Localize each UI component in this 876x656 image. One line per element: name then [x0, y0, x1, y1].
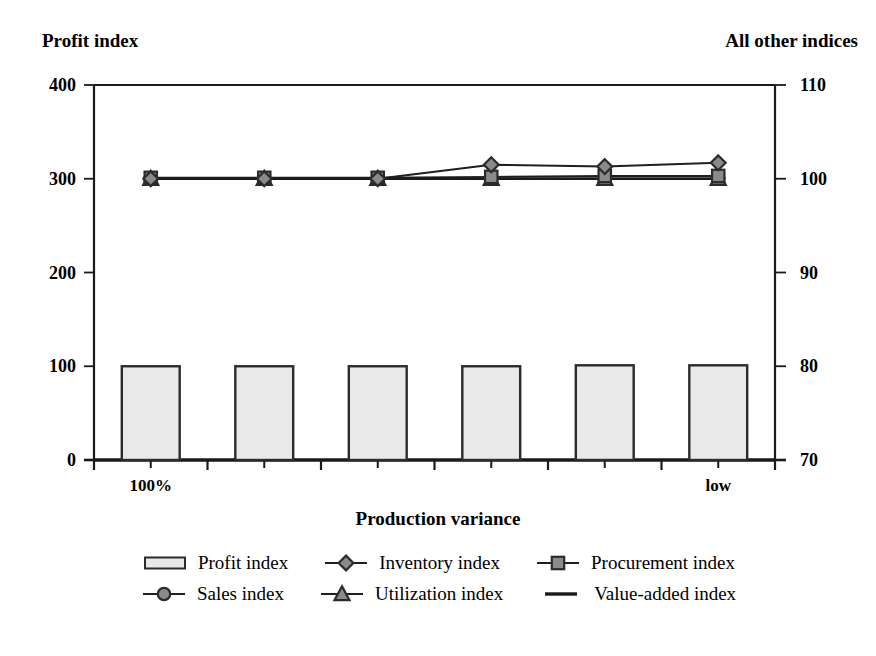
legend-label: Value-added index — [594, 583, 736, 605]
legend-label: Profit index — [198, 552, 288, 574]
legend-item[interactable]: Procurement index — [534, 552, 735, 574]
right-axis-tick-label: 110 — [800, 76, 870, 94]
legend-item[interactable]: Profit index — [141, 552, 288, 574]
legend-label: Procurement index — [591, 552, 735, 574]
right-axis-ticks — [775, 85, 786, 460]
bar — [122, 366, 180, 460]
legend-row: Profit indexInventory indexProcurement i… — [141, 552, 735, 574]
bar — [235, 366, 293, 460]
legend-row: Sales indexUtilization indexValue-added … — [140, 583, 736, 605]
bar — [576, 365, 634, 460]
left-axis-tick-label: 200 — [0, 264, 76, 282]
diamond-marker-icon — [322, 553, 370, 573]
legend-label: Sales index — [197, 583, 284, 605]
bar — [349, 366, 407, 460]
right-axis-tick-label: 70 — [800, 451, 870, 469]
legend-label: Inventory index — [379, 552, 500, 574]
triangle-marker-icon — [318, 584, 366, 604]
left-axis-tick-label: 400 — [0, 76, 76, 94]
line-marker-icon — [537, 584, 585, 604]
legend-item[interactable]: Inventory index — [322, 552, 500, 574]
chart-container: Profit index All other indices 010020030… — [0, 0, 876, 656]
right-axis-tick-label: 80 — [800, 357, 870, 375]
left-axis-tick-label: 300 — [0, 170, 76, 188]
rect-marker-icon — [141, 553, 189, 573]
left-axis-tick-label: 0 — [0, 451, 76, 469]
plot-area — [0, 0, 876, 540]
category-axis-label: 100% — [101, 476, 201, 496]
chart-legend: Profit indexInventory indexProcurement i… — [0, 552, 876, 605]
bar — [689, 365, 747, 460]
x-axis-title: Production variance — [0, 508, 876, 530]
legend-item[interactable]: Value-added index — [537, 583, 736, 605]
data-point-marker — [711, 155, 726, 170]
right-axis-tick-label: 100 — [800, 170, 870, 188]
left-axis-tick-label: 100 — [0, 357, 76, 375]
square-marker-icon — [534, 553, 582, 573]
circle-marker-icon — [140, 584, 188, 604]
category-axis-label: low — [668, 476, 768, 496]
bar-series-profit-index — [122, 365, 747, 460]
line-series-group — [143, 155, 726, 186]
legend-item[interactable]: Utilization index — [318, 583, 503, 605]
left-axis-ticks — [84, 85, 94, 460]
legend-label: Utilization index — [375, 583, 503, 605]
legend-item[interactable]: Sales index — [140, 583, 284, 605]
axis-frame — [94, 85, 775, 460]
right-axis-tick-label: 90 — [800, 264, 870, 282]
bar — [462, 366, 520, 460]
